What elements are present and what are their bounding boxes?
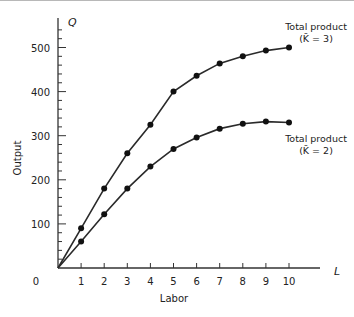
x-axis-label: Labor <box>160 293 189 304</box>
data-point <box>124 150 130 156</box>
x-tick-label: 5 <box>170 276 176 287</box>
data-point <box>217 60 223 66</box>
x-tick-label: 1 <box>78 276 84 287</box>
data-point <box>101 186 107 192</box>
y-tick-label: 100 <box>31 219 50 230</box>
data-point <box>240 53 246 59</box>
data-point <box>217 126 223 132</box>
x-tick-label: 9 <box>263 276 269 287</box>
x-tick-label: 7 <box>217 276 223 287</box>
y-tick-label: 200 <box>31 175 50 186</box>
series-lines <box>58 45 292 269</box>
x-tick-label: 4 <box>147 276 153 287</box>
data-point <box>240 121 246 127</box>
data-point <box>78 225 84 231</box>
series-line <box>58 48 289 269</box>
series-line <box>58 122 289 268</box>
data-point <box>263 48 269 54</box>
axes <box>58 18 320 268</box>
y-axis-symbol: Q <box>68 16 77 29</box>
series-label-capital: (K̄ = 3) <box>299 33 333 44</box>
x-tick-label: 2 <box>101 276 107 287</box>
data-point <box>286 119 292 125</box>
series-label: Total product <box>284 21 347 32</box>
x-tick-label: 10 <box>283 276 296 287</box>
data-point <box>124 186 130 192</box>
series-label: Total product <box>284 133 347 144</box>
axis-ticks: 012345678910100200300400500 <box>31 30 295 287</box>
x-tick-label: 8 <box>240 276 246 287</box>
x-tick-label: 6 <box>193 276 199 287</box>
data-point <box>194 134 200 140</box>
data-point <box>101 211 107 217</box>
data-point <box>78 239 84 245</box>
series-labels: Total product(K̄ = 3)Total product(K̄ = … <box>284 21 347 156</box>
y-tick-label: 400 <box>31 87 50 98</box>
data-point <box>263 119 269 125</box>
x-tick-label: 0 <box>33 276 39 287</box>
data-point <box>147 164 153 170</box>
x-tick-label: 3 <box>124 276 130 287</box>
y-tick-label: 300 <box>31 131 50 142</box>
data-point <box>171 89 177 95</box>
total-product-chart: 012345678910100200300400500 Output Labor… <box>0 0 354 317</box>
y-tick-label: 500 <box>31 43 50 54</box>
series-label-capital: (K̄ = 2) <box>299 145 333 156</box>
data-point <box>194 73 200 79</box>
x-axis-symbol: L <box>334 265 340 278</box>
data-point <box>286 45 292 51</box>
data-point <box>147 122 153 128</box>
y-axis-label: Output <box>12 141 23 176</box>
data-point <box>171 146 177 152</box>
